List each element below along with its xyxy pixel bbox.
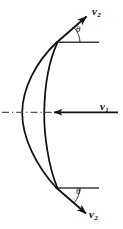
label-angle-theta-bottom: θ [76,187,80,196]
label-outlet-velocity-bottom-subscript: 2 [94,214,98,222]
label-angle-theta-top: θ [76,25,80,34]
vane-flow-diagram: v2 v1 v2 θ θ [0,0,123,229]
label-outlet-velocity-top-subscript: 2 [97,11,101,19]
vane-inner-curve [44,43,57,187]
label-inlet-velocity: v1 [100,101,109,114]
label-inlet-velocity-subscript: 1 [105,106,109,114]
diagram-canvas [0,0,123,229]
label-outlet-velocity-top: v2 [92,6,101,19]
label-outlet-velocity-bottom: v2 [89,209,98,222]
vane-outer-curve [22,43,56,189]
outlet-jet-bottom-arrow [56,187,87,214]
outlet-jet-top-arrow [56,17,87,44]
